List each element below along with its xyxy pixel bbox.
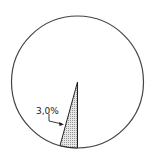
pie-chart: 3,0% xyxy=(0,0,155,158)
slice-label: 3,0% xyxy=(36,106,59,116)
